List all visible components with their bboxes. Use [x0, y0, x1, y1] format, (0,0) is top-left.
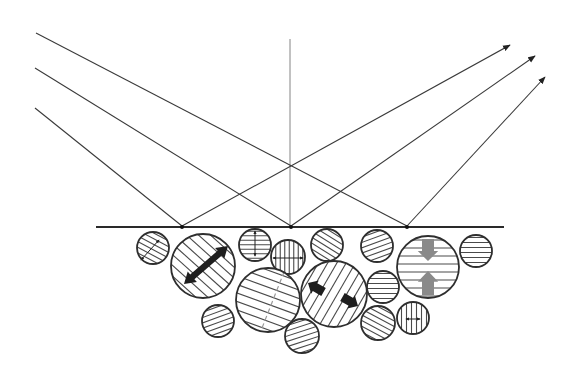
incident-ray-2: [35, 68, 291, 226]
reflection-point-1: [180, 225, 184, 229]
crystal-grains: [132, 222, 494, 356]
grain-reflection-diagram: [0, 0, 573, 378]
grain-C: [237, 229, 273, 261]
grain-A: [132, 228, 176, 267]
reflected-ray-2: [291, 56, 535, 226]
incident-ray-1: [36, 33, 407, 226]
grain-F: [196, 302, 238, 338]
sample-surface: [96, 225, 504, 229]
grain-L: [365, 271, 401, 303]
grain-I: [395, 236, 461, 298]
grain-J: [458, 235, 494, 267]
grain-G: [306, 224, 350, 264]
grain-H: [355, 227, 397, 263]
grain-N: [397, 300, 429, 336]
grain-B: [159, 222, 247, 309]
incident-ray-3: [35, 108, 182, 226]
light-rays: [35, 33, 545, 227]
reflected-ray-3: [407, 77, 545, 226]
reflection-point-2: [289, 225, 293, 229]
reflection-point-3: [405, 225, 409, 229]
reflected-ray-1: [182, 45, 510, 226]
diagram-canvas: [0, 0, 573, 378]
